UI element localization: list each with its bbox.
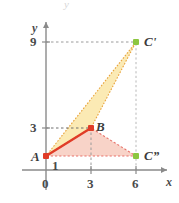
x-tick-label-0: 0 bbox=[42, 177, 49, 190]
point-label-c-prime: C' bbox=[144, 35, 156, 48]
y-tick-label-1: 1 bbox=[52, 159, 59, 172]
x-axis-label: x bbox=[166, 176, 172, 188]
point-label-a: A bbox=[31, 150, 40, 163]
point-marker-c-double-prime bbox=[133, 153, 139, 159]
x-tick-label-6: 6 bbox=[132, 177, 139, 190]
y-axis-arrow bbox=[43, 22, 49, 28]
point-label-c-double-prime: C” bbox=[144, 149, 159, 162]
x-tick-label-3: 3 bbox=[87, 177, 94, 190]
plot-canvas bbox=[0, 0, 179, 203]
point-marker-b bbox=[88, 125, 94, 131]
point-marker-c-prime bbox=[133, 39, 139, 45]
coordinate-plane-figure: y y x 9 bbox=[0, 0, 179, 203]
y-axis-label: y bbox=[32, 22, 37, 34]
point-label-b: B bbox=[96, 120, 105, 133]
x-axis-arrow bbox=[161, 167, 167, 173]
point-marker-a bbox=[43, 153, 49, 159]
y-tick-label-9: 9 bbox=[30, 35, 37, 48]
y-tick-label-3: 3 bbox=[30, 121, 37, 134]
